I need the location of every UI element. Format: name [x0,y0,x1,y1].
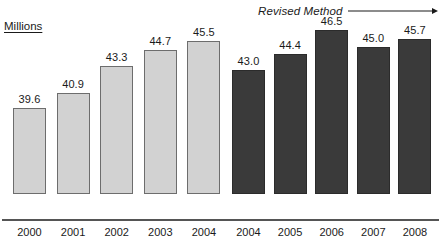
bar-value-label: 40.9 [62,78,84,90]
bar-revised-2006: 46.5 [315,30,348,194]
bar-rect [274,54,307,194]
bar-original-2000: 39.6 [13,108,46,194]
bar-rect [232,70,265,194]
bar-value-label: 44.4 [279,39,301,51]
plot-area: 39.640.943.344.745.543.044.446.545.045.7 [0,0,441,221]
bar-value-label: 45.5 [193,26,215,38]
bar-rect [13,108,46,194]
x-axis-line [2,219,439,221]
bar-value-label: 46.5 [321,15,343,27]
bar-rect [398,39,431,194]
bar-original-2004: 45.5 [187,41,220,194]
bar-value-label: 43.0 [238,55,260,67]
bar-rect [144,50,177,194]
bar-value-label: 45.7 [404,24,426,36]
x-tick-revised-2006: 2006 [315,226,348,238]
x-tick-original-2003: 2003 [144,226,177,238]
bar-rect [357,47,390,194]
bar-value-label: 43.3 [106,51,128,63]
bar-rect [187,41,220,194]
x-tick-revised-2008: 2008 [398,226,431,238]
bar-revised-2004: 43.0 [232,70,265,194]
bar-value-label: 44.7 [149,35,171,47]
bar-rect [100,66,133,194]
x-tick-revised-2004: 2004 [232,226,265,238]
bar-value-label: 45.0 [362,32,384,44]
bar-revised-2007: 45.0 [357,47,390,194]
x-tick-original-2004: 2004 [187,226,220,238]
x-tick-original-2002: 2002 [100,226,133,238]
bar-chart: Revised Method Millions 39.640.943.344.7… [0,0,441,247]
bar-value-label: 39.6 [19,93,41,105]
bar-revised-2005: 44.4 [274,54,307,194]
x-tick-original-2001: 2001 [57,226,90,238]
bar-rect [315,30,348,194]
bar-original-2002: 43.3 [100,66,133,194]
bar-rect [57,93,90,194]
bar-revised-2008: 45.7 [398,39,431,194]
x-tick-revised-2007: 2007 [357,226,390,238]
bar-original-2003: 44.7 [144,50,177,194]
x-tick-original-2000: 2000 [13,226,46,238]
x-tick-revised-2005: 2005 [274,226,307,238]
bar-original-2001: 40.9 [57,93,90,194]
